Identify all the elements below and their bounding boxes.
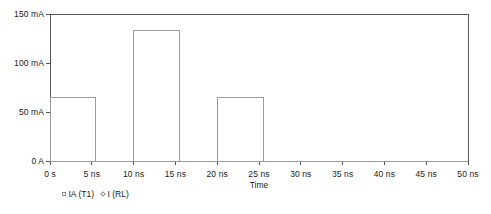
x-tick-label-25: 25 ns xyxy=(239,170,279,179)
x-tick-label-35: 35 ns xyxy=(323,170,363,179)
square-marker-icon xyxy=(62,192,66,196)
legend-entry-i-rl[interactable]: I (RL) xyxy=(101,190,129,199)
data-series-ia-t1 xyxy=(50,31,468,161)
legend-entry-ia-t1[interactable]: IA (T1) xyxy=(62,190,94,199)
x-tick-label-15: 15 ns xyxy=(155,170,195,179)
x-tick-label-5: 5 ns xyxy=(72,170,112,179)
legend-label-ia-t1: IA (T1) xyxy=(69,190,95,199)
x-tick-label-20: 20 ns xyxy=(197,170,237,179)
x-tick-label-10: 10 ns xyxy=(114,170,154,179)
y-tick-label-50: 50 mA xyxy=(0,108,44,117)
x-tick-label-40: 40 ns xyxy=(364,170,404,179)
x-tick-label-50: 50 ns xyxy=(448,170,488,179)
x-tick-label-30: 30 ns xyxy=(281,170,321,179)
legend-label-i-rl: I (RL) xyxy=(108,190,129,199)
x-tick-label-0: 0 s xyxy=(30,170,70,179)
x-tick-label-45: 45 ns xyxy=(406,170,446,179)
x-axis-ticks xyxy=(50,161,468,165)
chart-container: 150 mA 100 mA 50 mA 0 A 0 s 5 ns 10 ns 1… xyxy=(0,0,491,214)
diamond-marker-icon xyxy=(100,191,106,197)
chart-legend: IA (T1) I (RL) xyxy=(62,190,129,199)
plot-frame xyxy=(50,14,468,161)
y-tick-label-0: 0 A xyxy=(0,157,44,166)
y-axis-ticks xyxy=(46,14,50,161)
y-tick-label-100: 100 mA xyxy=(0,59,44,68)
x-axis-title: Time xyxy=(219,181,299,190)
y-tick-label-150: 150 mA xyxy=(0,10,44,19)
